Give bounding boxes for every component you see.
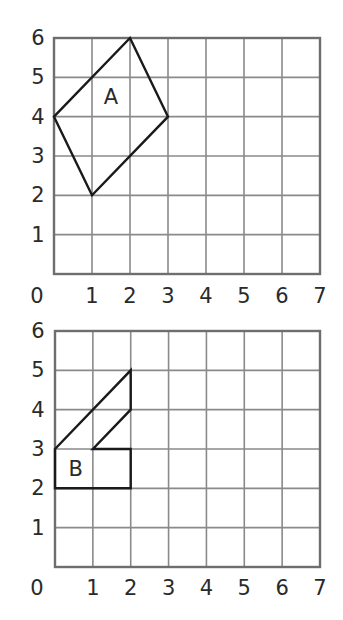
x-tick-label: 4 [199,284,212,308]
x-tick-label: 2 [123,284,136,308]
y-tick-label: 6 [31,319,44,343]
x-tick-label: 2 [124,576,137,600]
x-tick-label: 3 [161,284,174,308]
x-tick-label: 5 [238,576,251,600]
x-tick-label: 7 [313,576,326,600]
grid-b: 01234567123456B [30,319,326,600]
x-tick-label: 7 [313,284,326,308]
shape-a-label: A [104,85,119,109]
grid-a: 01234567123456A [30,26,326,308]
x-tick-label: 3 [162,576,175,600]
diagram-canvas: 01234567123456A 01234567123456B [0,0,343,620]
x-tick-label: 6 [275,284,288,308]
y-tick-label: 3 [31,144,44,168]
x-tick-label: 6 [275,576,288,600]
x-tick-label: 0 [30,576,43,600]
y-tick-label: 4 [31,105,44,129]
x-tick-label: 5 [237,284,250,308]
y-tick-label: 6 [31,26,44,50]
y-tick-label: 2 [31,476,44,500]
y-tick-label: 3 [31,437,44,461]
x-tick-label: 1 [85,284,98,308]
x-tick-label: 0 [30,284,43,308]
y-tick-label: 1 [31,223,44,247]
y-tick-label: 2 [31,183,44,207]
y-tick-label: 4 [31,398,44,422]
y-tick-label: 5 [31,65,44,89]
x-tick-label: 4 [200,576,213,600]
x-tick-label: 1 [86,576,99,600]
y-tick-label: 5 [31,358,44,382]
shape-b-label: B [69,457,83,481]
y-tick-label: 1 [31,516,44,540]
